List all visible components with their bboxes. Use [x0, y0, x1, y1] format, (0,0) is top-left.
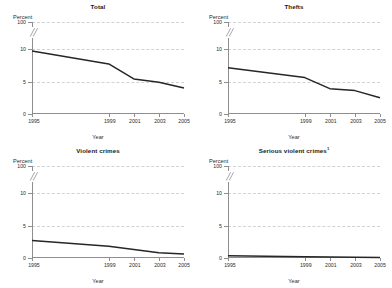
plot-area: 051010019951999200120032005	[228, 22, 380, 114]
plot-area: 051010019951999200120032005	[32, 22, 184, 114]
x-axis-tick: 2003	[355, 114, 356, 117]
x-axis-tick: 2005	[380, 114, 381, 117]
x-axis-tick-label: 1995	[224, 119, 236, 124]
y-axis-tick-label: 5	[23, 80, 26, 85]
y-axis-tick-label: 10	[20, 191, 26, 196]
y-axis-tick-label: 100	[213, 164, 222, 169]
x-axis-tick-label: 1995	[28, 263, 40, 268]
footnote-marker: 1	[327, 146, 329, 151]
series-path	[228, 256, 380, 258]
series-line	[228, 22, 380, 114]
x-axis-tick-label: 1999	[104, 263, 116, 268]
x-axis-tick: 2001	[330, 114, 331, 117]
x-axis-tick: 1999	[109, 114, 110, 117]
y-axis-tick-label: 5	[219, 224, 222, 229]
x-axis-tick-label: 1999	[104, 119, 116, 124]
x-axis-tick-label: 2003	[154, 119, 166, 124]
y-axis-tick-label: 0	[23, 256, 26, 261]
series-line	[32, 22, 184, 114]
x-axis-tick: 1995	[32, 258, 33, 261]
y-axis-tick-label: 0	[219, 112, 222, 117]
x-axis-tick-label: 2005	[178, 119, 190, 124]
panel-title: Total	[0, 3, 196, 10]
panel-serious-violent-crimes: Serious violent crimes1 Percent 05101001…	[196, 144, 392, 288]
panel-title: Violent crimes	[0, 147, 196, 154]
x-axis-tick: 2005	[184, 258, 185, 261]
plot-area: 051010019951999200120032005	[32, 166, 184, 258]
x-axis-label: Year	[196, 278, 392, 284]
x-axis-tick-label: 1995	[224, 263, 236, 268]
x-axis-label: Year	[0, 134, 196, 140]
x-axis-tick-label: 1999	[300, 119, 312, 124]
panel-thefts: Thefts Percent 0510100199519992001200320…	[196, 0, 392, 144]
x-axis-tick: 1999	[109, 258, 110, 261]
x-axis-tick-label: 2001	[325, 119, 337, 124]
x-axis-tick: 2003	[159, 114, 160, 117]
x-axis-tick: 2005	[380, 258, 381, 261]
series-line	[228, 166, 380, 258]
series-path	[32, 240, 184, 254]
x-axis-tick: 1999	[305, 258, 306, 261]
x-axis-tick: 1995	[32, 114, 33, 117]
panel-title-text: Total	[91, 3, 106, 10]
x-axis-tick-label: 2001	[129, 119, 141, 124]
x-axis-tick: 2001	[330, 258, 331, 261]
x-axis-tick: 2003	[159, 258, 160, 261]
x-axis-tick: 1999	[305, 114, 306, 117]
panel-total: Total Percent 05101001995199920012003200…	[0, 0, 196, 144]
y-axis-tick-label: 0	[23, 112, 26, 117]
x-axis-label: Year	[0, 278, 196, 284]
x-axis-tick-label: 1999	[300, 263, 312, 268]
panel-title: Thefts	[196, 3, 392, 10]
x-axis-tick-label: 2003	[350, 119, 362, 124]
y-axis-tick-label: 100	[213, 20, 222, 25]
x-axis-tick-label: 2005	[374, 263, 386, 268]
series-path	[228, 68, 380, 98]
x-axis-tick: 2001	[134, 114, 135, 117]
x-axis-tick-label: 2005	[178, 263, 190, 268]
x-axis-tick: 2001	[134, 258, 135, 261]
panel-title-text: Thefts	[284, 3, 303, 10]
x-axis-tick: 1995	[228, 114, 229, 117]
x-axis-tick-label: 2001	[325, 263, 337, 268]
y-axis-tick-label: 100	[17, 20, 26, 25]
x-axis-tick: 1995	[228, 258, 229, 261]
series-line	[32, 166, 184, 258]
y-axis-tick-label: 100	[17, 164, 26, 169]
series-path	[32, 51, 184, 88]
chart-figure: Total Percent 05101001995199920012003200…	[0, 0, 392, 288]
y-axis-tick-label: 10	[216, 191, 222, 196]
y-axis-tick-label: 10	[20, 47, 26, 52]
panel-title-text: Violent crimes	[76, 147, 120, 154]
x-axis-tick-label: 1995	[28, 119, 40, 124]
x-axis-tick-label: 2005	[374, 119, 386, 124]
y-axis-tick-label: 5	[219, 80, 222, 85]
x-axis-tick-label: 2003	[154, 263, 166, 268]
y-axis-tick-label: 5	[23, 224, 26, 229]
y-axis-tick-label: 10	[216, 47, 222, 52]
x-axis-tick-label: 2003	[350, 263, 362, 268]
y-axis-tick-label: 0	[219, 256, 222, 261]
panel-title-text: Serious violent crimes	[259, 147, 327, 154]
plot-area: 051010019951999200120032005	[228, 166, 380, 258]
x-axis-label: Year	[196, 134, 392, 140]
panel-title: Serious violent crimes1	[196, 147, 392, 154]
x-axis-tick: 2005	[184, 114, 185, 117]
x-axis-tick: 2003	[355, 258, 356, 261]
x-axis-tick-label: 2001	[129, 263, 141, 268]
panel-violent-crimes: Violent crimes Percent 05101001995199920…	[0, 144, 196, 288]
